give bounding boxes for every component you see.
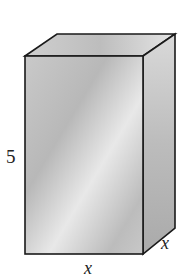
- side-face: [143, 34, 175, 254]
- front-face: [25, 56, 143, 254]
- width-label: x: [84, 258, 92, 278]
- depth-label: x: [161, 233, 169, 254]
- height-label: 5: [6, 146, 16, 168]
